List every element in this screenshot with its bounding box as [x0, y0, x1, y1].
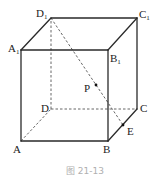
- edge-D1A1: [21, 18, 51, 50]
- label-E: E: [127, 125, 134, 137]
- label-A: A: [13, 143, 21, 155]
- label-C1: C1: [139, 8, 150, 22]
- label-C: C: [140, 102, 147, 114]
- edge-B1C1: [108, 18, 137, 50]
- figure-caption: 图 21-13: [66, 166, 104, 176]
- label-D1: D1: [36, 7, 48, 21]
- label-B: B: [103, 143, 110, 155]
- point-P-dot: [95, 84, 98, 87]
- label-A1: A1: [8, 42, 20, 56]
- point-E-dot: [122, 124, 125, 127]
- label-D: D: [41, 102, 49, 114]
- cube-diagram: D1 C1 A1 B1 P D C E A B 图 21-13: [0, 0, 161, 184]
- label-B1: B1: [110, 52, 121, 66]
- label-P: P: [84, 82, 90, 94]
